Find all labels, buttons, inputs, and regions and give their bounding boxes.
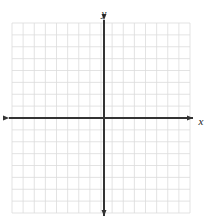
y-axis-label: y bbox=[101, 7, 107, 19]
coordinate-plane: x y bbox=[0, 0, 209, 222]
coordinate-grid-figure: x y bbox=[0, 0, 209, 222]
x-axis-label: x bbox=[198, 115, 204, 127]
